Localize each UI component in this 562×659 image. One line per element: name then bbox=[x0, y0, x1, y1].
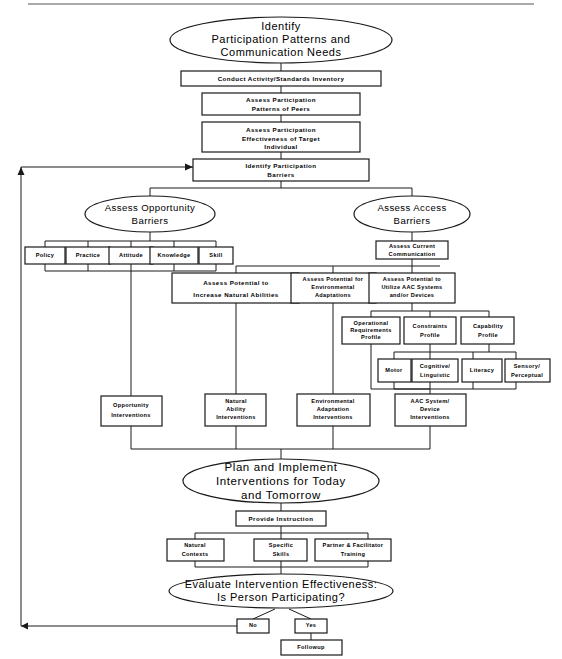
capability-profile-shape bbox=[461, 317, 514, 344]
node-assess-environmental[interactable]: Assess Potential for Environmental Adapt… bbox=[291, 273, 376, 303]
operational-requirements-profile-label-3: Profile bbox=[361, 334, 381, 340]
natural-contexts-label-2: Contexts bbox=[182, 551, 209, 557]
aac-system-device-interventions-label-3: Interventions bbox=[410, 414, 450, 420]
cognitive-linguistic-label-1: Cognitive/ bbox=[420, 363, 451, 369]
environmental-adaptation-interventions-label-3: Interventions bbox=[313, 414, 353, 420]
followup-label: Followup bbox=[297, 644, 325, 650]
node-operational-requirements-profile[interactable]: Operational Requirements Profile bbox=[342, 317, 400, 344]
policy-label: Policy bbox=[36, 252, 55, 258]
assess-environmental-label-3: Adaptations bbox=[315, 292, 351, 298]
assess-environmental-label-1: Assess Potential for bbox=[303, 276, 364, 282]
capability-profile-label-1: Capability bbox=[473, 323, 504, 329]
node-assess-current-communication[interactable]: Assess Current Communication bbox=[376, 241, 448, 259]
motor-label: Motor bbox=[385, 367, 403, 373]
environmental-adaptation-interventions-label-1: Environmental bbox=[311, 398, 354, 404]
identify-barriers-label-2: Barriers bbox=[267, 171, 294, 178]
node-partner-facilitator-training[interactable]: Partner & Facilitator Training bbox=[315, 539, 391, 561]
assess-increase-natural-label-1: Assess Potential to bbox=[203, 279, 269, 286]
cognitive-linguistic-label-2: Linguistic bbox=[420, 372, 450, 378]
partner-facilitator-training-label-1: Partner & Facilitator bbox=[323, 542, 384, 548]
literacy-label: Literacy bbox=[470, 367, 495, 373]
plan-and-implement-label-1: Plan and Implement bbox=[224, 461, 337, 473]
natural-ability-interventions-label-2: Ability bbox=[226, 406, 246, 412]
aac-system-device-interventions-label-1: AAC System/ bbox=[411, 398, 450, 404]
node-assess-increase-natural[interactable]: Assess Potential to Increase Natural Abi… bbox=[172, 273, 299, 303]
node-environmental-adaptation-interventions[interactable]: Environmental Adaptation Interventions bbox=[297, 394, 370, 426]
node-practice[interactable]: Practice bbox=[66, 247, 110, 264]
assess-current-communication-label-2: Communication bbox=[389, 251, 436, 257]
natural-ability-interventions-label-3: Interventions bbox=[216, 414, 256, 420]
node-no-branch[interactable]: No bbox=[237, 619, 269, 633]
cognitive-linguistic-shape bbox=[412, 359, 458, 382]
node-opportunity-interventions[interactable]: Opportunity Interventions bbox=[101, 396, 162, 426]
constraints-profile-shape bbox=[404, 317, 456, 344]
node-identify-participation[interactable]: Identify Participation Patterns and Comm… bbox=[170, 17, 392, 63]
feedback-arrow-into-barriers bbox=[185, 164, 193, 171]
node-skill[interactable]: Skill bbox=[199, 247, 233, 264]
assess-current-communication-label-1: Assess Current bbox=[389, 243, 435, 249]
node-assess-effectiveness[interactable]: Assess Participation Effectiveness of Ta… bbox=[202, 122, 360, 152]
node-assess-patterns-peers[interactable]: Assess Participation Patterns of Peers bbox=[202, 93, 360, 115]
natural-ability-interventions-label-1: Natural bbox=[225, 398, 247, 404]
specific-skills-label-2: Skills bbox=[273, 551, 290, 557]
node-assess-aac[interactable]: Assess Potential to Utilize AAC Systems … bbox=[369, 273, 455, 303]
assess-access-barriers-label-1: Assess Access bbox=[377, 202, 446, 213]
node-attitude[interactable]: Attitude bbox=[109, 247, 153, 264]
node-plan-and-implement[interactable]: Plan and Implement Interventions for Tod… bbox=[183, 459, 379, 503]
node-aac-system-device-interventions[interactable]: AAC System/ Device Interventions bbox=[395, 394, 466, 426]
assess-aac-label-1: Assess Potential to bbox=[383, 276, 441, 282]
node-specific-skills[interactable]: Specific Skills bbox=[254, 539, 307, 561]
assess-aac-label-2: Utilize AAC Systems bbox=[381, 284, 442, 290]
sensory-perceptual-shape bbox=[505, 359, 550, 382]
feedback-arrow-left bbox=[21, 623, 28, 630]
identify-participation-label-1: Identify bbox=[261, 20, 300, 32]
assess-opportunity-barriers-label-1: Assess Opportunity bbox=[105, 202, 195, 213]
node-sensory-perceptual[interactable]: Sensory/ Perceptual bbox=[505, 359, 550, 382]
node-natural-ability-interventions[interactable]: Natural Ability Interventions bbox=[205, 394, 266, 426]
node-conduct-inventory[interactable]: Conduct Activity/Standards Inventory bbox=[181, 71, 381, 86]
capability-profile-label-2: Profile bbox=[478, 332, 498, 338]
evaluate-effectiveness-label-2: Is Person Participating? bbox=[217, 591, 345, 603]
node-provide-instruction[interactable]: Provide Instruction bbox=[236, 511, 326, 526]
identify-barriers-label-1: Identify Participation bbox=[245, 162, 316, 169]
knowledge-label: Knowledge bbox=[158, 252, 191, 258]
plan-and-implement-label-3: and Tomorrow bbox=[241, 489, 321, 501]
node-natural-contexts[interactable]: Natural Contexts bbox=[167, 539, 224, 561]
constraints-profile-label-2: Profile bbox=[420, 332, 440, 338]
partner-facilitator-training-label-2: Training bbox=[341, 551, 366, 557]
opportunity-interventions-label-2: Interventions bbox=[111, 412, 151, 418]
environmental-adaptation-interventions-label-2: Adaptation bbox=[317, 406, 350, 412]
sensory-perceptual-label-1: Sensory/ bbox=[514, 363, 541, 369]
specific-skills-label-1: Specific bbox=[269, 542, 293, 548]
opportunity-interventions-label-1: Opportunity bbox=[113, 402, 149, 408]
assess-effectiveness-label-3: Individual bbox=[264, 143, 297, 150]
node-followup[interactable]: Followup bbox=[281, 640, 342, 655]
node-capability-profile[interactable]: Capability Profile bbox=[461, 317, 514, 344]
node-constraints-profile[interactable]: Constraints Profile bbox=[404, 317, 456, 344]
opportunity-interventions-shape bbox=[101, 396, 162, 426]
node-literacy[interactable]: Literacy bbox=[462, 359, 502, 382]
node-yes-branch[interactable]: Yes bbox=[295, 619, 327, 633]
node-cognitive-linguistic[interactable]: Cognitive/ Linguistic bbox=[412, 359, 458, 382]
practice-label: Practice bbox=[76, 252, 101, 258]
node-policy[interactable]: Policy bbox=[25, 247, 65, 264]
node-assess-access-barriers[interactable]: Assess Access Barriers bbox=[354, 196, 470, 232]
assess-increase-natural-label-2: Increase Natural Abilities bbox=[193, 291, 279, 298]
flowchart-canvas: Identify Participation Patterns and Comm… bbox=[0, 0, 562, 659]
no-branch-label: No bbox=[249, 622, 257, 628]
identify-participation-label-3: Communication Needs bbox=[221, 46, 342, 58]
aac-system-device-interventions-label-2: Device bbox=[420, 406, 440, 412]
assess-effectiveness-label-1: Assess Participation bbox=[246, 126, 316, 133]
assess-effectiveness-label-2: Effectiveness of Target bbox=[242, 135, 320, 142]
node-identify-barriers[interactable]: Identify Participation Barriers bbox=[193, 159, 369, 181]
attitude-label: Attitude bbox=[119, 252, 143, 258]
assess-aac-label-3: and/or Devices bbox=[390, 292, 435, 298]
assess-patterns-peers-label-2: Patterns of Peers bbox=[252, 105, 311, 112]
operational-requirements-profile-label-1: Operational bbox=[354, 320, 389, 326]
node-assess-opportunity-barriers[interactable]: Assess Opportunity Barriers bbox=[85, 196, 215, 232]
node-knowledge[interactable]: Knowledge bbox=[150, 247, 198, 264]
node-evaluate-effectiveness[interactable]: Evaluate Intervention Effectiveness: Is … bbox=[169, 574, 393, 608]
assess-opportunity-barriers-label-2: Barriers bbox=[132, 215, 169, 226]
node-motor[interactable]: Motor bbox=[378, 359, 411, 382]
identify-participation-label-2: Participation Patterns and bbox=[212, 33, 351, 45]
